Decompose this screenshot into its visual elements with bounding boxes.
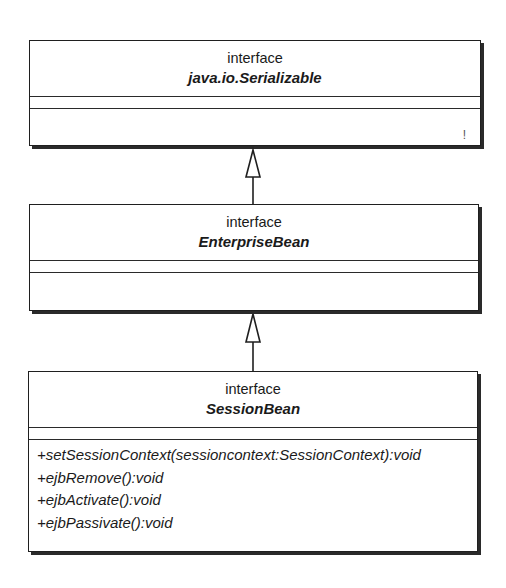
- attributes-compartment: [30, 97, 480, 109]
- operation-set-session-context: +setSessionContext(sessioncontext:Sessio…: [29, 444, 477, 467]
- class-name: EnterpriseBean: [30, 232, 478, 252]
- generalization-arrow-sessionbean-to-enterprisebean: [246, 314, 260, 372]
- attributes-compartment: [30, 261, 478, 273]
- hollow-triangle-arrowhead-icon: [246, 150, 260, 177]
- class-name: java.io.Serializable: [30, 68, 480, 88]
- stereotype-label: interface: [30, 213, 478, 231]
- operation-ejb-passivate: +ejbPassivate():void: [29, 512, 477, 535]
- operation-ejb-remove: +ejbRemove():void: [29, 467, 477, 490]
- stereotype-label: interface: [29, 380, 477, 398]
- operations-compartment: +setSessionContext(sessioncontext:Sessio…: [29, 442, 477, 551]
- class-box-sessionbean[interactable]: interface SessionBean +setSessionContext…: [28, 371, 478, 552]
- class-header: interface SessionBean: [29, 372, 477, 428]
- hollow-triangle-arrowhead-icon: [246, 314, 260, 342]
- operations-compartment: !: [30, 109, 480, 145]
- class-header: interface java.io.Serializable: [30, 41, 480, 97]
- class-box-enterprisebean[interactable]: interface EnterpriseBean: [29, 204, 479, 311]
- class-box-serializable[interactable]: interface java.io.Serializable !: [29, 40, 481, 146]
- operations-compartment: [30, 273, 478, 310]
- class-header: interface EnterpriseBean: [30, 205, 478, 261]
- class-name: SessionBean: [29, 399, 477, 419]
- operation-ejb-activate: +ejbActivate():void: [29, 489, 477, 512]
- stereotype-label: interface: [30, 49, 480, 67]
- attributes-compartment: [29, 428, 477, 440]
- generalization-arrow-enterprisebean-to-serializable: [246, 150, 260, 205]
- note-mark: !: [463, 128, 466, 142]
